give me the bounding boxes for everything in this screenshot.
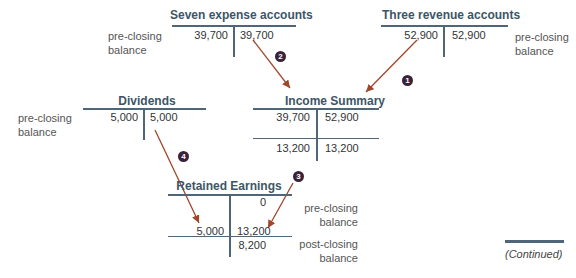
expense-debit: 39,700 bbox=[186, 29, 228, 41]
expense-t-stem bbox=[233, 26, 235, 57]
retained-earnings-t-stem bbox=[229, 195, 231, 257]
retained-earnings-closing: 8,200 bbox=[236, 239, 266, 251]
retained-earnings-title: Retained Earnings bbox=[166, 179, 292, 193]
revenue-debit: 52,900 bbox=[392, 29, 438, 41]
continued-label: (Continued) bbox=[505, 248, 562, 260]
expense-pre-closing-label: pre-closing balance bbox=[108, 29, 168, 57]
dividends-pre-closing-label: pre-closing balance bbox=[18, 111, 78, 139]
retained-earnings-pre-closing-label: pre-closing balance bbox=[296, 201, 358, 229]
continued-rule bbox=[505, 240, 564, 243]
retained-earnings-opening: 0 bbox=[236, 196, 266, 208]
step-3-badge: 3 bbox=[293, 171, 304, 182]
revenue-credit: 52,900 bbox=[452, 29, 486, 41]
arrow-step-4 bbox=[155, 130, 199, 223]
dividends-debit: 5,000 bbox=[100, 111, 138, 123]
retained-earnings-rule bbox=[168, 236, 292, 237]
retained-earnings-post-closing-label: post-closing balance bbox=[296, 237, 358, 265]
income-summary-rule bbox=[253, 138, 379, 139]
step-1-badge: 1 bbox=[402, 75, 413, 86]
income-summary-t-stem bbox=[316, 109, 318, 161]
dividends-credit: 5,000 bbox=[150, 111, 178, 123]
income-summary-title: Income Summary bbox=[280, 94, 390, 108]
dividends-title: Dividends bbox=[86, 94, 208, 108]
income-summary-credit-2: 13,200 bbox=[325, 142, 359, 154]
arrow-step-2 bbox=[253, 40, 290, 88]
step-4-badge: 4 bbox=[178, 151, 189, 162]
income-summary-debit-2: 13,200 bbox=[262, 142, 310, 154]
revenue-pre-closing-label: pre-closing balance bbox=[515, 30, 575, 58]
income-summary-credit-1: 52,900 bbox=[325, 111, 359, 123]
expense-accounts-title: Seven expense accounts bbox=[170, 8, 298, 22]
expense-credit: 39,700 bbox=[240, 29, 274, 41]
dividends-t-stem bbox=[143, 109, 145, 140]
step-2-badge: 2 bbox=[275, 51, 286, 62]
income-summary-debit-1: 39,700 bbox=[262, 111, 310, 123]
revenue-t-stem bbox=[443, 26, 445, 57]
revenue-accounts-title: Three revenue accounts bbox=[382, 8, 506, 22]
